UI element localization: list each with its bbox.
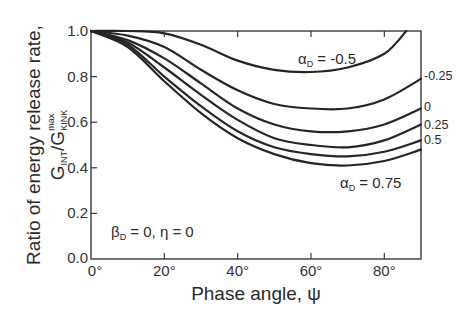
y-tick-label: 0.2 xyxy=(67,204,88,221)
y-tick-label: 0.6 xyxy=(67,113,88,130)
x-tick-label: 0° xyxy=(88,262,102,279)
curve-series xyxy=(91,31,421,147)
curve-series xyxy=(91,31,421,109)
curve-label-neg0.25: -0.25 xyxy=(424,69,453,83)
y-tick-label: 0.0 xyxy=(67,249,88,266)
chart: 0°20°40°60°80° 0.00.20.40.60.81.0 Ratio … xyxy=(0,0,464,319)
y-axis-title-line1: Ratio of energy release rate, xyxy=(23,25,44,265)
annotation-alpha-top: αD = -0.5 xyxy=(298,50,356,69)
curve-label-0.25: 0.25 xyxy=(424,118,448,132)
x-tick-label: 40° xyxy=(226,262,249,279)
y-axis-ticks: 0.00.20.40.60.81.0 xyxy=(67,22,97,266)
x-axis-ticks: 0°20°40°60°80° xyxy=(88,31,396,279)
curve-label-0.5: 0.5 xyxy=(424,133,441,147)
x-tick-label: 60° xyxy=(300,262,323,279)
x-axis-title: Phase angle, ψ xyxy=(191,283,321,304)
curve-label-0: 0 xyxy=(424,100,431,114)
x-tick-label: 80° xyxy=(373,262,396,279)
y-axis-title-line2: GINT/GmaxKINK xyxy=(46,110,69,180)
y-tick-label: 1.0 xyxy=(67,22,88,39)
y-axis-title: Ratio of energy release rate, GINT/GmaxK… xyxy=(23,25,69,265)
annotation-alpha-bottom: αD = 0.75 xyxy=(340,174,401,193)
x-tick-label: 20° xyxy=(153,262,176,279)
annotation-params: βD = 0, η = 0 xyxy=(111,223,194,242)
curves xyxy=(91,31,421,166)
y-tick-label: 0.4 xyxy=(67,159,88,176)
curve-series xyxy=(91,31,421,132)
y-tick-label: 0.8 xyxy=(67,68,88,85)
